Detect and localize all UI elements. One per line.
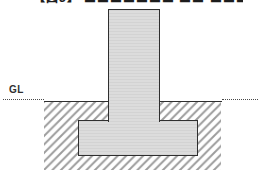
figure-caption: 【図3】 〓〓〓〓〓〓〓 〓〓 〓〓〓〓〓〓 bbox=[33, 0, 243, 5]
gl-dotted-line-left bbox=[3, 99, 44, 100]
gl-dotted-line-right bbox=[222, 99, 258, 100]
foundation-stem bbox=[108, 9, 160, 122]
figure-canvas: 【図3】 〓〓〓〓〓〓〓 〓〓 〓〓〓〓〓〓 GL bbox=[0, 0, 267, 180]
ground-level-label: GL bbox=[9, 84, 24, 95]
ground-surface-line-left bbox=[44, 101, 109, 103]
figure-caption-text: 【図3】 〓〓〓〓〓〓〓 〓〓 〓〓〓〓〓〓 bbox=[33, 0, 243, 5]
foundation-footing bbox=[78, 120, 198, 157]
ground-surface-line-right bbox=[159, 101, 222, 103]
